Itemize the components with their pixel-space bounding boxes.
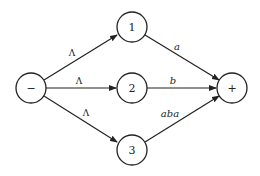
edge-label-start-1: Λ (68, 48, 76, 58)
node-3: 3 (117, 135, 147, 165)
node-1-label: 1 (129, 21, 136, 34)
edge-label-start-3: Λ (82, 108, 90, 118)
node-2-label: 2 (129, 82, 136, 95)
edge-1-end (145, 35, 219, 80)
edge-3-end (145, 96, 219, 142)
edge-label-1-end: a (174, 41, 180, 52)
node-2: 2 (117, 73, 147, 103)
node-start-label: − (26, 82, 35, 95)
transition-diagram: Λ Λ Λ a b aba − 1 2 3 + (0, 0, 260, 176)
edge-label-2-end: b (170, 75, 176, 86)
edge-start-3 (44, 96, 117, 142)
node-end: + (217, 73, 247, 103)
node-end-label: + (227, 82, 236, 95)
node-start: − (16, 73, 46, 103)
node-1: 1 (117, 12, 147, 42)
edge-label-start-2: Λ (75, 76, 83, 86)
edge-start-1 (44, 35, 117, 80)
edge-label-3-end: aba (161, 108, 179, 119)
node-3-label: 3 (129, 144, 136, 157)
